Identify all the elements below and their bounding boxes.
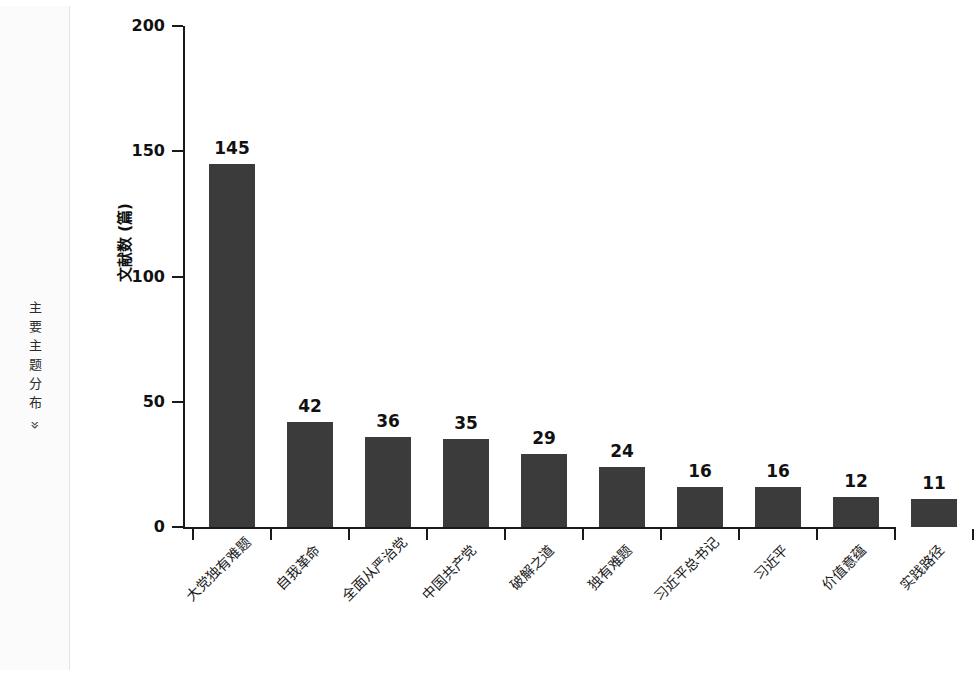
x-axis-labels: 大党独有难题自我革命全面从严治党中国共产党破解之道独有难题习近平总书记习近平价值…	[71, 540, 896, 676]
bar[interactable]	[677, 487, 723, 527]
x-tick-mark	[270, 529, 272, 540]
x-category-label: 中国共产党	[415, 540, 480, 605]
chevron-right-icon[interactable]: »	[28, 420, 42, 429]
sidebar-facet-label: 主要主题分布	[25, 298, 45, 412]
bar[interactable]	[755, 487, 801, 527]
bar-value-label: 36	[376, 411, 400, 431]
bar[interactable]	[365, 437, 411, 527]
x-tick-mark	[660, 529, 662, 540]
bar[interactable]	[833, 497, 879, 527]
x-category-label: 破解之道	[493, 540, 558, 605]
x-tick-mark	[816, 529, 818, 540]
bar-value-label: 24	[610, 441, 634, 461]
bar-group[interactable]: 16	[677, 0, 723, 527]
bar-value-label: 35	[454, 413, 478, 433]
bar-group[interactable]: 35	[443, 0, 489, 527]
bar-group[interactable]: 29	[521, 0, 567, 527]
x-tick-mark	[426, 529, 428, 540]
x-category-label: 全面从严治党	[337, 540, 402, 605]
bar-value-label: 42	[298, 396, 322, 416]
bar[interactable]	[443, 439, 489, 527]
x-category-label: 独有难题	[571, 540, 636, 605]
bar[interactable]	[911, 499, 957, 527]
x-tick-mark	[738, 529, 740, 540]
x-tick-mark	[348, 529, 350, 540]
bar-value-label: 16	[688, 461, 712, 481]
x-category-label: 自我革命	[259, 540, 324, 605]
x-category-label: 习近平总书记	[649, 540, 714, 605]
x-tick-mark	[192, 529, 194, 540]
x-category-label: 习近平	[727, 540, 792, 605]
bar-value-label: 12	[844, 471, 868, 491]
bar[interactable]	[521, 454, 567, 527]
sidebar-facet-main-topic[interactable]: 主要主题分布 »	[0, 298, 70, 432]
sidebar-panel: 主要主题分布 »	[0, 6, 70, 670]
x-tick-mark	[582, 529, 584, 540]
bar-value-label: 145	[214, 138, 250, 158]
bar-chart: 文献数 (篇) 050100150200 1454236352924161612…	[71, 0, 896, 676]
x-category-label: 大党独有难题	[181, 540, 246, 605]
bar[interactable]	[599, 467, 645, 527]
x-category-label: 实践路径	[883, 540, 948, 605]
bar-group[interactable]: 11	[911, 0, 957, 527]
x-category-label: 价值意蕴	[805, 540, 870, 605]
x-axis-line	[183, 527, 896, 529]
bar-group[interactable]: 12	[833, 0, 879, 527]
bar-group[interactable]: 36	[365, 0, 411, 527]
x-tick-mark	[504, 529, 506, 540]
x-tick-mark	[894, 529, 896, 540]
bar-value-label: 16	[766, 461, 790, 481]
bar-group[interactable]: 24	[599, 0, 645, 527]
bar-value-label: 29	[532, 428, 556, 448]
bar[interactable]	[209, 164, 255, 527]
bar-group[interactable]: 42	[287, 0, 333, 527]
bar-value-label: 11	[922, 473, 946, 493]
bar[interactable]	[287, 422, 333, 527]
bar-group[interactable]: 145	[209, 0, 255, 527]
bar-group[interactable]: 16	[755, 0, 801, 527]
bars-layer: 145423635292416161211	[71, 0, 896, 527]
